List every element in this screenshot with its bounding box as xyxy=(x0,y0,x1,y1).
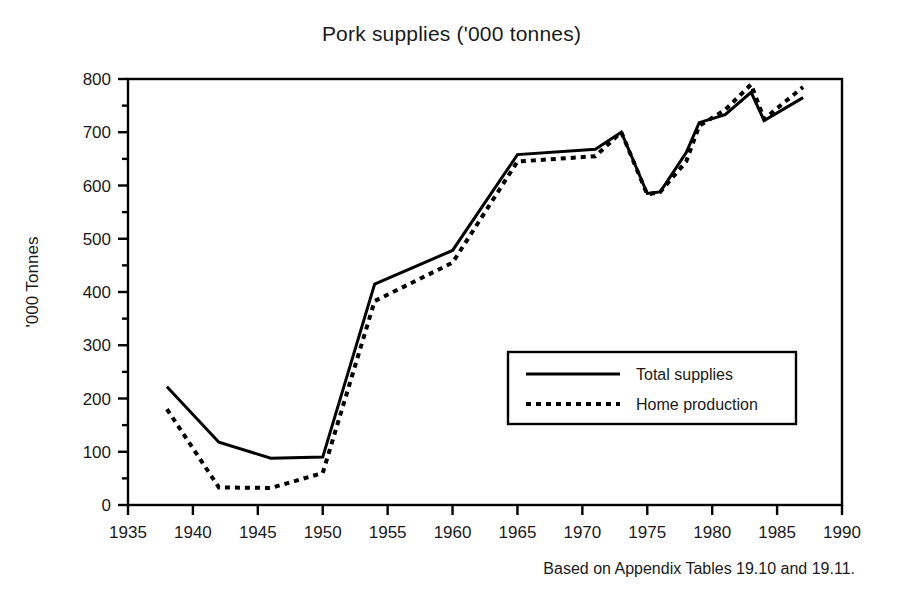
y-tick-label: 700 xyxy=(83,123,111,142)
plot-border xyxy=(128,79,842,505)
y-axis-title: '000 Tonnes xyxy=(23,212,43,352)
x-tick-label: 1985 xyxy=(758,523,796,542)
chart-title: Pork supplies ('000 tonnes) xyxy=(0,22,903,46)
y-axis-ticks: 0100200300400500600700800 xyxy=(83,70,128,515)
y-tick-label: 800 xyxy=(83,70,111,89)
x-tick-label: 1935 xyxy=(109,523,147,542)
x-tick-label: 1940 xyxy=(174,523,212,542)
y-tick-label: 100 xyxy=(83,443,111,462)
data-series-layer xyxy=(167,84,803,488)
plot-frame xyxy=(128,79,842,505)
x-tick-label: 1965 xyxy=(499,523,537,542)
chart-figure: Pork supplies ('000 tonnes) '000 Tonnes … xyxy=(0,0,903,611)
x-tick-label: 1945 xyxy=(239,523,277,542)
x-tick-label: 1960 xyxy=(434,523,472,542)
chart-legend: Total suppliesHome production xyxy=(508,352,796,424)
x-axis-ticks: 1935194019451950195519601965197019751980… xyxy=(109,505,861,542)
x-tick-label: 1975 xyxy=(628,523,666,542)
plot-area: 0100200300400500600700800 19351940194519… xyxy=(0,0,903,611)
y-tick-label: 300 xyxy=(83,336,111,355)
y-tick-label: 0 xyxy=(102,496,111,515)
x-tick-label: 1970 xyxy=(563,523,601,542)
legend-box xyxy=(508,352,796,424)
legend-label: Home production xyxy=(636,396,758,413)
series-line xyxy=(167,84,803,488)
x-tick-label: 1950 xyxy=(304,523,342,542)
source-footnote: Based on Appendix Tables 19.10 and 19.11… xyxy=(543,560,855,578)
y-tick-label: 200 xyxy=(83,390,111,409)
x-tick-label: 1990 xyxy=(823,523,861,542)
y-tick-label: 600 xyxy=(83,177,111,196)
legend-label: Total supplies xyxy=(636,366,733,383)
x-tick-label: 1980 xyxy=(693,523,731,542)
y-tick-label: 400 xyxy=(83,283,111,302)
x-tick-label: 1955 xyxy=(369,523,407,542)
y-tick-label: 500 xyxy=(83,230,111,249)
